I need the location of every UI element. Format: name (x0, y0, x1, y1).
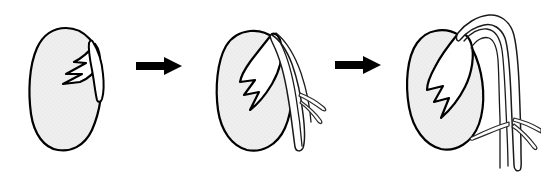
germination-figure: Seed Germination Sequence Three-stage li… (0, 0, 541, 178)
germination-illustration (0, 0, 541, 178)
